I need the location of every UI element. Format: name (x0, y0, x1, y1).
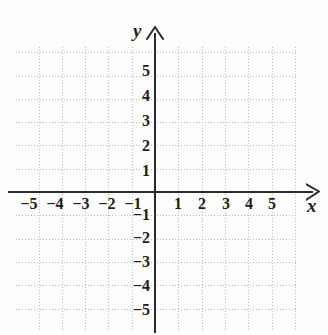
grid-line-vertical (85, 47, 86, 332)
grid-line-vertical (272, 47, 273, 332)
x-tick-label-2: 2 (194, 196, 210, 212)
y-axis-label: y (133, 21, 141, 40)
grid-line-vertical (202, 47, 203, 332)
y-tick-label-5: 5 (134, 63, 150, 79)
x-tick-label-neg-3: −3 (71, 196, 91, 212)
grid-line-horizontal (16, 145, 297, 146)
grid-line-vertical (225, 47, 226, 332)
grid-line-vertical (39, 47, 40, 332)
y-tick-label-neg-1: −1 (128, 207, 150, 223)
grid-line-vertical (108, 47, 109, 332)
grid-line-horizontal (16, 169, 297, 170)
y-tick-label-3: 3 (134, 113, 150, 129)
grid-line-vertical (62, 47, 63, 332)
grid-line-horizontal (16, 309, 297, 310)
grid-line-horizontal (16, 122, 297, 123)
x-tick-label-neg-2: −2 (97, 196, 117, 212)
grid-line-horizontal (16, 76, 297, 77)
grid-line-horizontal (16, 262, 297, 263)
x-tick-label-neg-4: −4 (45, 196, 65, 212)
grid-line-horizontal (16, 285, 297, 286)
grid-line-vertical (295, 47, 296, 332)
y-tick-label-4: 4 (134, 88, 150, 104)
x-tick-label-4: 4 (241, 196, 257, 212)
y-axis-arrow-icon (144, 26, 166, 40)
y-tick-label-2: 2 (134, 138, 150, 154)
y-tick-label-neg-5: −5 (128, 302, 150, 318)
y-tick-label-neg-3: −3 (128, 254, 150, 270)
grid-line-horizontal (16, 239, 297, 240)
x-tick-label-neg-5: −5 (19, 196, 39, 212)
x-tick-label-3: 3 (218, 196, 234, 212)
grid-line-horizontal (16, 99, 297, 100)
x-axis-label: x (307, 196, 317, 215)
coordinate-plane-figure: y x −5 −4 −3 −2 −1 1 2 3 4 5 5 4 3 2 1 −… (0, 0, 328, 335)
y-axis-line (154, 33, 156, 333)
grid-lines (16, 47, 297, 332)
grid-line-horizontal (16, 52, 297, 53)
y-tick-label-neg-2: −2 (128, 230, 150, 246)
x-tick-label-1: 1 (170, 196, 186, 212)
y-tick-label-1: 1 (134, 163, 150, 179)
grid-line-horizontal (16, 215, 297, 216)
y-tick-label-neg-4: −4 (128, 278, 150, 294)
x-tick-label-5: 5 (264, 196, 280, 212)
grid-line-vertical (248, 47, 249, 332)
grid-line-vertical (178, 47, 179, 332)
x-axis-line (8, 191, 313, 193)
